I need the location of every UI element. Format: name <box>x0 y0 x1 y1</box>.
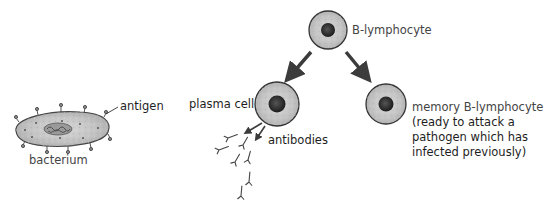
plasma-cell-label: plasma cell <box>189 97 254 111</box>
memory-label-line-4: infected previously) <box>412 145 543 160</box>
antibody-release-arrow-2 <box>257 126 265 138</box>
plasma-cell <box>255 82 299 126</box>
b-lymphocyte-cell <box>309 11 347 49</box>
antigen-leader-line <box>106 107 118 114</box>
memory-label-line-3: pathogen which has <box>412 130 543 145</box>
antigen-label: antigen <box>120 99 164 113</box>
antibodies-label: antibodies <box>268 133 328 147</box>
antibodies-group <box>215 132 253 199</box>
antibody-release-arrow-1 <box>247 123 262 132</box>
arrow-to-plasma-cell <box>291 52 311 75</box>
bacterium-shape <box>14 103 111 153</box>
memory-b-lymphocyte-label: memory B-lymphocyte (ready to attack a p… <box>412 100 543 160</box>
arrow-to-memory-cell <box>346 52 365 75</box>
memory-label-line-2: (ready to attack a <box>412 115 543 130</box>
b-lymphocyte-label: B-lymphocyte <box>352 23 432 37</box>
bacterium-label: bacterium <box>29 153 88 167</box>
memory-label-line-1: memory B-lymphocyte <box>412 100 543 115</box>
memory-b-lymphocyte-cell <box>366 84 406 124</box>
